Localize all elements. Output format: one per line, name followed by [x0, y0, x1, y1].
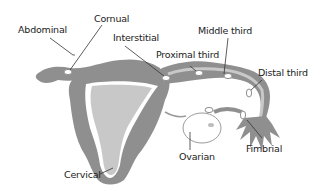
label-ovarian: Ovarian	[179, 152, 215, 162]
label-abdominal: Abdominal	[18, 25, 67, 35]
site-proximal	[195, 70, 203, 75]
label-interstitial: Interstitial	[113, 33, 159, 43]
tube-to-ovary	[214, 109, 242, 112]
site-middle	[224, 73, 232, 78]
label-distal-third: Distal third	[258, 68, 308, 78]
ovary-follicle	[208, 123, 214, 127]
leader-abdominal	[50, 38, 73, 55]
label-cervical: Cervical	[64, 170, 101, 180]
label-proximal-third: Proximal third	[156, 50, 219, 60]
site-interstitial	[162, 75, 170, 80]
site-fimbrial	[240, 111, 245, 119]
ovary	[183, 113, 221, 143]
label-cornual: Cornual	[94, 14, 129, 24]
label-middle-third: Middle third	[198, 26, 252, 36]
ovarian-ligament	[165, 112, 186, 117]
ectopic-pregnancy-sites-diagram: Abdominal Cornual Interstitial Proximal …	[0, 0, 321, 191]
leader-cornual	[70, 25, 102, 70]
site-cornual	[64, 69, 72, 74]
label-fimbrial: Fimbrial	[246, 144, 282, 154]
site-distal	[246, 89, 251, 97]
abdominal-site-dot	[73, 54, 75, 56]
site-tube-near-ovary	[205, 107, 213, 112]
